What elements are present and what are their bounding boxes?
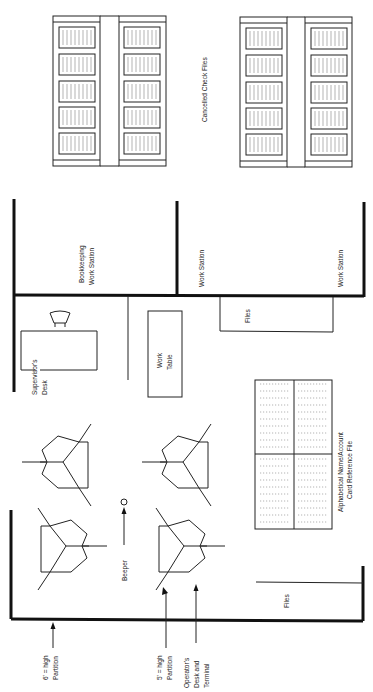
six-foot-partition-callout: 6' = high Partition xyxy=(42,622,59,680)
supervisor-label-line1: Supervisor's xyxy=(31,359,39,395)
work-station-label-1: Work Station xyxy=(198,250,205,287)
chair-icon xyxy=(50,311,70,327)
file-cabinet-4 xyxy=(287,17,352,167)
card-file-label-line1: Alphabetical Name/Account xyxy=(337,432,345,512)
five-ft-label-line1: 5' = high xyxy=(156,655,164,680)
arrow-up-icon xyxy=(51,622,56,629)
work-station-label-2: Work Station xyxy=(337,250,344,287)
card-reference-file: Alphabetical Name/Account Card Reference… xyxy=(255,380,353,529)
six-foot-partitions xyxy=(11,199,364,621)
supervisor-label-line2: Desk xyxy=(41,379,48,395)
cancelled-check-files-group: Cancelled Check Files xyxy=(53,16,352,167)
work-table-label-line1: Work xyxy=(156,352,163,368)
five-ft-label-line2: Partition xyxy=(166,656,173,680)
six-ft-label-line1: 6' = high xyxy=(42,655,50,680)
five-foot-partition-callout: 5' = high Partition xyxy=(156,587,173,680)
file-cabinet-1 xyxy=(53,16,100,166)
operator-desk-3 xyxy=(38,508,107,590)
files-lower: Files xyxy=(256,582,363,608)
beeper-label: Beeper xyxy=(121,559,129,581)
operator-desk-callout: Operator's Desk and Terminal xyxy=(183,584,210,688)
files-lower-label: Files xyxy=(283,594,290,608)
bookkeeping-label-line1: Bookkeeping xyxy=(78,245,86,283)
bookkeeping-label-line2: Work Station xyxy=(88,248,95,285)
operator-desk-1 xyxy=(22,424,91,506)
work-table-label-line2: Table xyxy=(166,354,173,370)
operator-desk-2 xyxy=(142,424,211,506)
work-table: Work Table xyxy=(148,311,182,397)
file-cabinet-3 xyxy=(240,17,287,167)
operator-label-line1: Operator's xyxy=(183,657,191,688)
files-upper: Files xyxy=(220,297,333,332)
operator-desk-4 xyxy=(156,508,225,590)
card-file-label-line2: Card Reference File xyxy=(346,440,353,499)
beeper: Beeper xyxy=(121,499,129,581)
files-upper-label: Files xyxy=(244,309,251,323)
office-floor-plan: Cancelled Check Files Bookkeeping Work S… xyxy=(0,0,373,692)
bookkeeping-work-station: Bookkeeping Work Station xyxy=(78,245,95,285)
operator-label-line2: Desk and xyxy=(193,660,200,688)
operator-label-line3: Terminal xyxy=(203,663,210,688)
beeper-icon xyxy=(121,499,127,505)
six-ft-label-line2: Partition xyxy=(52,656,59,680)
arrow-up-icon xyxy=(194,584,199,591)
arrow-up-icon xyxy=(162,587,168,595)
supervisor-desk: Supervisor's Desk xyxy=(21,311,97,395)
cancelled-check-files-label: Cancelled Check Files xyxy=(201,57,208,122)
arrow-up-icon xyxy=(122,507,127,514)
